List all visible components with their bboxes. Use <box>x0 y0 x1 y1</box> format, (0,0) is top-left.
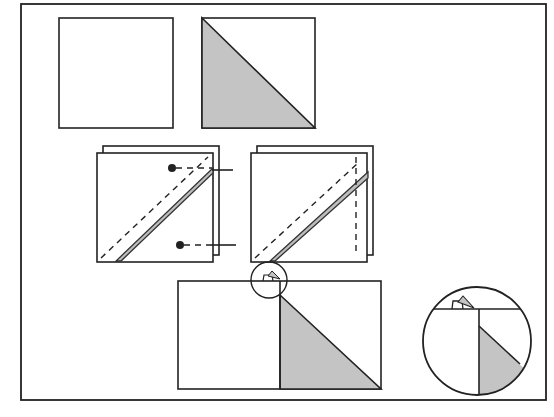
pin-head-top <box>168 164 176 172</box>
pressed-unit <box>178 262 381 389</box>
diagonal-shaded-square <box>202 18 315 128</box>
stitched-squares-with-cut-line <box>251 146 373 262</box>
quilt-instruction-diagram <box>0 0 554 417</box>
plain-square <box>59 18 173 128</box>
pin-head-bottom <box>176 241 184 249</box>
stitched-squares-with-pins <box>97 146 236 262</box>
